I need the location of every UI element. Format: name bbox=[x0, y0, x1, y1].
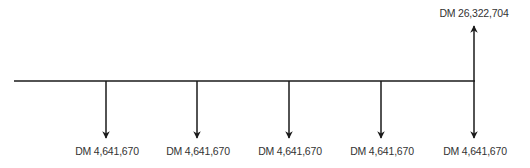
inflow-label: DM 26,322,704 bbox=[439, 7, 508, 19]
outflow-label-3: DM 4,641,670 bbox=[258, 145, 322, 157]
outflow-label-5: DM 4,641,670 bbox=[443, 145, 507, 157]
cash-flow-diagram bbox=[0, 0, 530, 168]
outflow-label-4: DM 4,641,670 bbox=[350, 145, 414, 157]
outflow-label-2: DM 4,641,670 bbox=[166, 145, 230, 157]
outflow-label-1: DM 4,641,670 bbox=[75, 145, 139, 157]
